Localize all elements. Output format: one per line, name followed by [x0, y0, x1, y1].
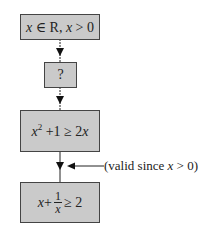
conclusion-box: x + 1 x ≥ 2	[20, 182, 100, 223]
arrow-left-icon	[67, 163, 75, 170]
fraction: 1 x	[54, 190, 62, 215]
step-text: +1 ≥ 2	[42, 124, 82, 139]
var-x: x	[82, 124, 88, 139]
conclusion-text: ≥ 2	[64, 195, 82, 211]
premise-text: ∈ R,	[32, 20, 66, 35]
arrow-down-icon	[56, 162, 64, 170]
unknown-text: ?	[57, 67, 63, 83]
unknown-box: ?	[44, 62, 77, 88]
step-box: x2 +1 ≥ 2x	[20, 110, 100, 152]
premise-box: x ∈ R, x > 0	[20, 14, 100, 40]
arrow-down-icon	[56, 48, 64, 56]
plus-sign: +	[44, 195, 52, 211]
premise-text: > 0	[72, 20, 94, 35]
arrow-down-icon	[56, 96, 64, 104]
note-text: > 0)	[173, 158, 198, 173]
note-text: (valid since	[104, 158, 168, 173]
annotation-note: (valid since x > 0)	[104, 158, 198, 174]
denominator: x	[55, 203, 60, 215]
